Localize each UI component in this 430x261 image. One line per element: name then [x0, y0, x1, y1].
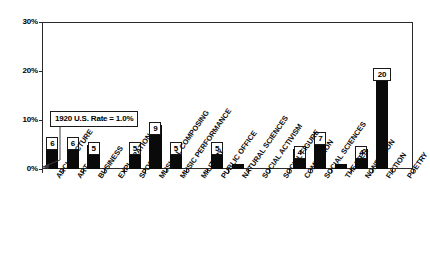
y-axis-tick-label: 0%: [2, 164, 38, 173]
y-axis-tick-mark: [39, 22, 42, 23]
bar-chart: 0%10%20%30% 665595547420 ARCHITECTUREART…: [0, 0, 430, 261]
y-axis-tick-label: 20%: [2, 66, 38, 75]
annotation-1920-us-rate: 1920 U.S. Rate = 1.0%: [50, 111, 138, 127]
bar-value-label: 9: [149, 122, 161, 135]
y-axis-tick-label: 10%: [2, 115, 38, 124]
bar-value-label: 20: [373, 68, 391, 81]
y-axis-tick-label: 30%: [2, 17, 38, 26]
y-axis-tick-mark: [39, 71, 42, 72]
